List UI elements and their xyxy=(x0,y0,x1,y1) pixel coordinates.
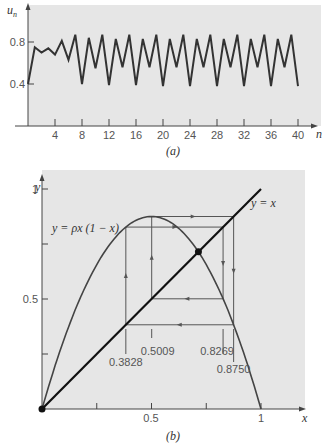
panel-a-background xyxy=(28,5,321,126)
cycle-value-label: 0.5009 xyxy=(141,345,175,357)
x-tick-label: 24 xyxy=(184,129,196,141)
x-tick-label: 20 xyxy=(157,129,169,141)
x-tick-label: 16 xyxy=(130,129,142,141)
y-tick-label: 0.4 xyxy=(10,78,25,90)
xtick-1: 1 xyxy=(258,412,264,424)
x-tick-label: 12 xyxy=(103,129,115,141)
panel-a: 481216202428323640 0.80.4 un n (a) xyxy=(7,3,322,158)
panel-b-caption: (b) xyxy=(166,429,180,443)
y-tick-label: 0.8 xyxy=(10,36,25,48)
cycle-value-label: 0.8269 xyxy=(200,345,234,357)
ytick-1: 1 xyxy=(32,183,38,195)
x-tick-label: 36 xyxy=(265,129,277,141)
x-tick-label: 40 xyxy=(292,129,304,141)
xtick-0.5: 0.5 xyxy=(143,412,158,424)
cycle-value-label: 0.8750 xyxy=(217,363,251,375)
x-tick-label: 8 xyxy=(79,129,85,141)
y-axis-label: un xyxy=(7,3,17,19)
panel-b: 0.38280.50090.82690.8750 y 1 0.5 0.5 1 x… xyxy=(23,170,308,443)
panel-a-caption: (a) xyxy=(166,144,180,158)
x-axis-label: x xyxy=(301,411,308,425)
fixed-point-marker xyxy=(195,248,202,255)
x-tick-label: 32 xyxy=(238,129,250,141)
x-axis-label: n xyxy=(316,127,322,141)
line-label: y = x xyxy=(250,196,276,210)
cycle-value-label: 0.3828 xyxy=(109,356,143,368)
x-tick-label: 4 xyxy=(52,129,58,141)
figure: 481216202428323640 0.80.4 un n (a) 0.382… xyxy=(0,0,328,446)
curve-label: y = ρx (1 − x) xyxy=(51,221,119,235)
origin-marker xyxy=(39,406,46,413)
x-tick-label: 28 xyxy=(211,129,223,141)
ytick-0.5: 0.5 xyxy=(23,293,38,305)
